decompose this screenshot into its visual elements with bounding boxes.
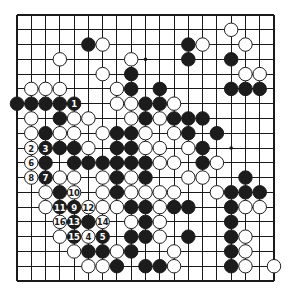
white-stone <box>110 82 123 95</box>
black-stone <box>182 53 195 66</box>
black-stone <box>139 230 152 243</box>
black-stone <box>139 97 152 110</box>
move-number: 10 <box>68 188 80 198</box>
move-number: 2 <box>28 144 34 154</box>
white-stone <box>96 171 109 184</box>
white-stone <box>25 112 38 125</box>
black-stone <box>53 97 66 110</box>
black-stone <box>224 53 237 66</box>
black-stone <box>139 112 152 125</box>
white-stone <box>124 97 137 110</box>
white-stone <box>96 200 109 213</box>
white-stone <box>182 171 195 184</box>
white-stone: 6 <box>25 156 38 169</box>
white-stone <box>167 259 180 272</box>
black-stone <box>53 141 66 154</box>
white-stone <box>110 200 123 213</box>
black-stone: 5 <box>96 230 109 243</box>
white-stone <box>124 53 137 66</box>
black-stone <box>124 67 137 80</box>
black-stone <box>182 112 195 125</box>
black-stone <box>124 230 137 243</box>
black-stone: 7 <box>39 171 52 184</box>
go-board: 12368710119121613141545 <box>0 0 289 289</box>
white-stone <box>210 156 223 169</box>
white-stone <box>110 97 123 110</box>
black-stone <box>110 186 123 199</box>
star-point <box>144 58 148 62</box>
white-stone <box>82 259 95 272</box>
black-stone <box>210 126 223 139</box>
black-stone <box>67 141 80 154</box>
white-stone <box>153 215 166 228</box>
move-number: 1 <box>71 99 77 109</box>
white-stone <box>239 245 252 258</box>
black-stone <box>196 156 209 169</box>
white-stone <box>82 112 95 125</box>
white-stone <box>139 141 152 154</box>
white-stone <box>239 38 252 51</box>
black-stone: 1 <box>67 97 80 110</box>
black-stone <box>153 259 166 272</box>
white-stone <box>239 67 252 80</box>
black-stone <box>224 82 237 95</box>
white-stone <box>167 186 180 199</box>
move-number: 7 <box>43 173 49 183</box>
white-stone: 8 <box>25 171 38 184</box>
black-stone <box>139 200 152 213</box>
move-number: 13 <box>68 217 80 227</box>
white-stone <box>96 186 109 199</box>
black-stone <box>139 259 152 272</box>
white-stone: 10 <box>67 186 80 199</box>
white-stone <box>182 141 195 154</box>
black-stone: 15 <box>67 230 80 243</box>
white-stone <box>210 186 223 199</box>
white-stone <box>196 38 209 51</box>
black-stone <box>167 112 180 125</box>
black-stone <box>82 215 95 228</box>
black-stone <box>182 200 195 213</box>
black-stone <box>239 82 252 95</box>
move-number: 9 <box>71 203 77 213</box>
white-stone <box>124 186 137 199</box>
black-stone <box>224 215 237 228</box>
white-stone <box>153 200 166 213</box>
black-stone <box>167 200 180 213</box>
white-stone <box>67 126 80 139</box>
black-stone <box>67 156 80 169</box>
white-stone <box>153 156 166 169</box>
white-stone <box>67 112 80 125</box>
black-stone <box>253 186 266 199</box>
white-stone <box>25 82 38 95</box>
move-number: 8 <box>28 173 34 183</box>
black-stone <box>139 156 152 169</box>
black-stone <box>224 186 237 199</box>
black-stone <box>96 156 109 169</box>
white-stone <box>67 245 80 258</box>
move-number: 5 <box>100 232 106 242</box>
white-stone <box>124 171 137 184</box>
white-stone <box>67 171 80 184</box>
white-stone <box>96 259 109 272</box>
white-stone <box>167 245 180 258</box>
black-stone <box>124 245 137 258</box>
white-stone <box>53 126 66 139</box>
black-stone <box>82 38 95 51</box>
white-stone <box>53 230 66 243</box>
black-stone <box>53 112 66 125</box>
white-stone <box>239 230 252 243</box>
black-stone: 13 <box>67 215 80 228</box>
white-stone <box>167 156 180 169</box>
move-number: 15 <box>68 232 80 242</box>
white-stone <box>253 67 266 80</box>
black-stone: 9 <box>67 200 80 213</box>
black-stone <box>182 126 195 139</box>
black-stone <box>196 141 209 154</box>
black-stone: 11 <box>53 200 66 213</box>
black-stone <box>53 186 66 199</box>
black-stone <box>182 38 195 51</box>
white-stone: 12 <box>82 200 95 213</box>
black-stone: 3 <box>39 141 52 154</box>
black-stone <box>124 156 137 169</box>
black-stone <box>82 156 95 169</box>
